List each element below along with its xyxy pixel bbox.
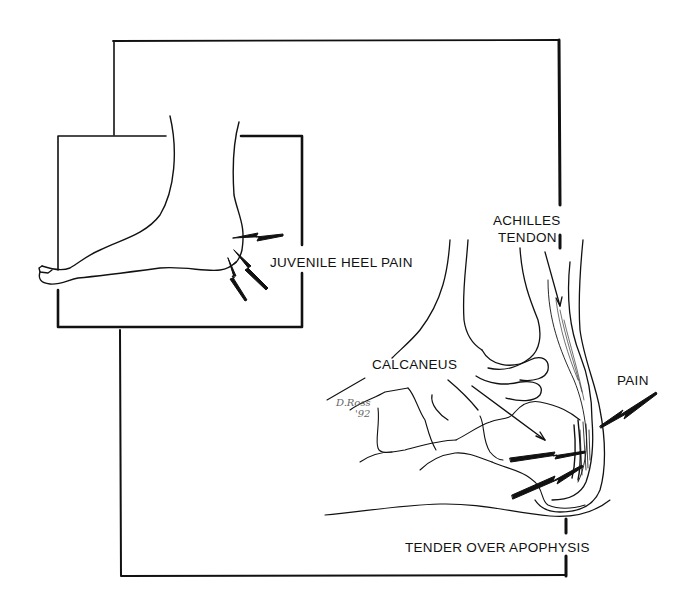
artist-signature-year: '92 [355, 409, 370, 419]
label-achilles: ACHILLES [493, 213, 561, 228]
label-calcaneus: CALCANEUS [372, 357, 457, 372]
artist-signature: D.Ross [336, 398, 371, 408]
label-tender-over-apophysis: TENDER OVER APOPHYSIS [405, 540, 590, 555]
calcaneus-arrow [472, 386, 545, 440]
label-juvenile-heel-pain: JUVENILE HEEL PAIN [270, 255, 413, 270]
achilles-arrow [545, 252, 562, 306]
label-pain: PAIN [617, 373, 649, 388]
apophysis-hatching [580, 422, 590, 475]
heel-pain-illustration [0, 0, 691, 616]
ankle-bones [392, 240, 548, 420]
inset-frame [58, 136, 302, 327]
label-tendon: TENDON [498, 230, 557, 245]
heel-pain-bolts [510, 392, 657, 499]
outer-frame [113, 40, 566, 576]
foot-outline [39, 116, 243, 284]
